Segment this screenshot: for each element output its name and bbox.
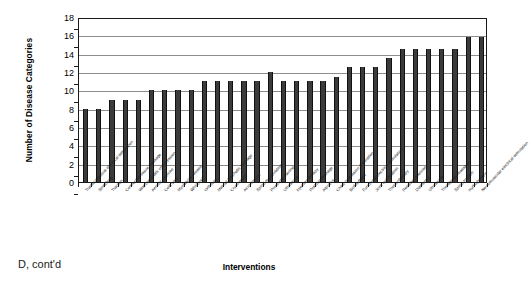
bar: [400, 49, 405, 182]
bar: [215, 81, 220, 182]
bar: [294, 81, 299, 182]
x-axis-tick: [223, 183, 224, 187]
bar: [268, 72, 273, 182]
y-axis-tick-label: 4: [69, 141, 74, 151]
bar: [426, 49, 431, 182]
bar: [320, 81, 325, 182]
x-axis-tick: [157, 183, 158, 187]
x-axis-tick: [104, 183, 105, 187]
x-axis-tick: [421, 183, 422, 187]
x-axis-tick: [210, 183, 211, 187]
x-axis-tick: [236, 183, 237, 187]
bar: [149, 90, 154, 182]
x-axis-tick: [381, 183, 382, 187]
x-axis-tick: [131, 183, 132, 187]
y-axis-tick-label: 2: [69, 160, 74, 170]
bar: [386, 58, 391, 182]
y-axis-tick-labels: 024681012141618: [52, 12, 74, 190]
bar: [96, 109, 101, 182]
bar: [189, 90, 194, 182]
bar: [413, 49, 418, 182]
y-axis-tick-label: 0: [69, 178, 74, 188]
bar: [439, 49, 444, 182]
x-axis-tick: [487, 183, 488, 187]
bar: [347, 67, 352, 182]
bar: [202, 81, 207, 182]
y-axis-tick-label: 8: [69, 105, 74, 115]
bar: [109, 100, 114, 183]
y-axis-tick-label: 18: [64, 13, 74, 23]
x-axis-tick: [434, 183, 435, 187]
x-axis-tick: [289, 183, 290, 187]
figure-caption: D, cont'd: [18, 258, 61, 270]
x-axis-tick: [197, 183, 198, 187]
y-axis-tick-label: 10: [64, 86, 74, 96]
x-axis-tick: [447, 183, 448, 187]
bar: [123, 100, 128, 183]
bar: [228, 81, 233, 182]
x-axis-tick: [302, 183, 303, 187]
x-axis-tick: [329, 183, 330, 187]
bar: [452, 49, 457, 182]
bar: [307, 81, 312, 182]
x-axis-tick: [250, 183, 251, 187]
bar: [83, 109, 88, 182]
x-axis-tick: [408, 183, 409, 187]
x-axis-tick: [263, 183, 264, 187]
x-axis-tick: [461, 183, 462, 187]
bar: [479, 37, 484, 182]
x-axis-tick: [395, 183, 396, 187]
y-axis-tick-label: 12: [64, 68, 74, 78]
x-axis-title: Interventions: [0, 262, 498, 272]
x-axis-tick: [315, 183, 316, 187]
x-axis-tick: [118, 183, 119, 187]
x-axis-tick: [91, 183, 92, 187]
y-axis-tick: [74, 194, 78, 195]
x-axis-ticks: [78, 183, 487, 187]
y-axis-tick-label: 16: [64, 31, 74, 41]
x-axis-tick: [355, 183, 356, 187]
bar: [360, 67, 365, 182]
bar: [241, 81, 246, 182]
bar: [334, 77, 339, 182]
bar: [162, 90, 167, 182]
x-axis-tick: [474, 183, 475, 187]
y-axis-tick-label: 14: [64, 50, 74, 60]
bar: [254, 81, 259, 182]
bar-series: [79, 19, 486, 182]
y-axis-tick-label: 6: [69, 123, 74, 133]
x-axis-tick: [368, 183, 369, 187]
bar: [373, 67, 378, 182]
bar: [136, 100, 141, 183]
x-axis-tick: [170, 183, 171, 187]
y-axis-title: Number of Disease Categories: [24, 10, 34, 190]
plot-area: [78, 18, 487, 183]
x-axis-tick: [184, 183, 185, 187]
x-axis-tick: [144, 183, 145, 187]
x-axis-tick: [78, 183, 79, 187]
bar: [175, 90, 180, 182]
x-axis-tick: [342, 183, 343, 187]
bar: [281, 81, 286, 182]
x-axis-tick: [276, 183, 277, 187]
bar: [466, 37, 471, 182]
